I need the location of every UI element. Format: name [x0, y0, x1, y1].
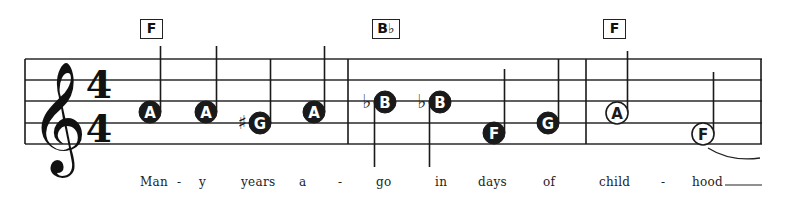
flat-icon: ♭: [418, 90, 427, 112]
lyric-syllable: in: [435, 175, 447, 189]
treble-clef-icon: 𝄞: [30, 61, 87, 178]
chord-symbol: B♭: [372, 19, 400, 39]
note-letter: A: [611, 105, 623, 123]
note-letter: A: [308, 104, 320, 122]
half-note: F: [692, 72, 714, 145]
lyric-syllable: child: [599, 175, 630, 189]
note-letter: F: [489, 125, 499, 143]
quarter-note: G♯: [237, 59, 271, 134]
quarter-note: A: [303, 46, 325, 123]
lyric-syllable: -: [177, 175, 181, 189]
chord-symbol: F: [140, 19, 163, 39]
lyric-syllable: -: [338, 175, 342, 189]
lyric-syllable: Man: [140, 175, 168, 189]
sharp-icon: ♯: [237, 111, 246, 133]
time-signature: 4 4: [86, 62, 112, 151]
note-letter: A: [144, 104, 156, 122]
note-letter: G: [542, 115, 554, 133]
quarter-note: A: [195, 46, 217, 123]
lyric-syllable: days: [478, 175, 507, 189]
flat-icon: ♭: [363, 90, 372, 112]
note-letter: B: [379, 94, 390, 112]
lyric-syllable: of: [543, 175, 555, 189]
quarter-note: B♭: [418, 90, 451, 167]
lyric-syllable: a: [299, 175, 306, 189]
quarter-note: A: [139, 46, 161, 123]
note-letter: F: [698, 126, 708, 144]
lyric-syllable: hood: [692, 175, 723, 189]
lyric-syllable: go: [376, 175, 392, 189]
lyric-syllable: years: [241, 175, 275, 189]
quarter-note: B♭: [363, 90, 396, 167]
note-letter: B: [434, 94, 445, 112]
chord-symbol: F: [603, 19, 626, 39]
note-letter: G: [254, 115, 266, 133]
note-letter: A: [200, 104, 212, 122]
lyric-syllable: y: [199, 175, 206, 189]
notes: AAG♯AB♭B♭FGAF: [139, 46, 714, 167]
tie-curve: [708, 148, 760, 159]
lyric-syllable: -: [661, 175, 665, 189]
half-note: A: [606, 51, 628, 124]
quarter-note: G: [537, 59, 559, 134]
svg-text:4: 4: [86, 62, 112, 107]
svg-text:4: 4: [86, 106, 112, 151]
